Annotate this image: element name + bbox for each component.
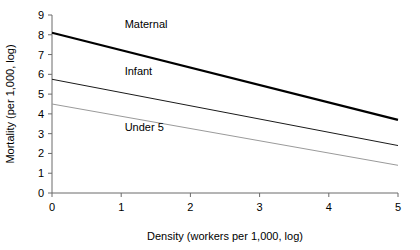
y-tick-label-1: 1 (38, 167, 44, 179)
x-tick-label-0: 0 (49, 201, 55, 213)
y-tick-label-2: 2 (38, 147, 44, 159)
y-axis-title: Mortality (per 1,000, log) (4, 44, 16, 163)
y-tick-label-3: 3 (38, 128, 44, 140)
y-tick-label-6: 6 (38, 68, 44, 80)
x-tick-label-4: 4 (326, 201, 332, 213)
y-tick-label-9: 9 (38, 9, 44, 21)
chart-background (0, 0, 420, 250)
series-label-under-5: Under 5 (125, 121, 164, 133)
x-axis-title: Density (workers per 1,000, log) (147, 230, 303, 242)
series-label-maternal: Maternal (125, 18, 168, 30)
y-tick-label-7: 7 (38, 49, 44, 61)
y-tick-label-5: 5 (38, 88, 44, 100)
x-tick-label-2: 2 (187, 201, 193, 213)
x-tick-label-3: 3 (257, 201, 263, 213)
y-tick-label-4: 4 (38, 108, 44, 120)
chart-svg: 0123456789 012345 Maternal Infant Under … (0, 0, 420, 250)
mortality-density-chart: 0123456789 012345 Maternal Infant Under … (0, 0, 420, 250)
y-tick-label-0: 0 (38, 187, 44, 199)
y-tick-label-8: 8 (38, 29, 44, 41)
x-tick-label-1: 1 (118, 201, 124, 213)
series-label-infant: Infant (125, 65, 153, 77)
x-tick-label-5: 5 (395, 201, 401, 213)
